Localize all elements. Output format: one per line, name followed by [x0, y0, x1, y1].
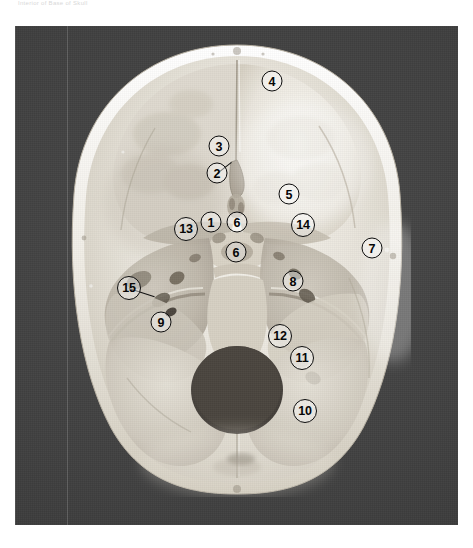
- marker-7[interactable]: 7: [362, 238, 383, 259]
- cranial-base-illustration: [63, 42, 411, 497]
- marker-1[interactable]: 1: [201, 212, 222, 233]
- marker-12[interactable]: 12: [268, 324, 292, 348]
- marker-5[interactable]: 5: [279, 184, 300, 205]
- marker-6a[interactable]: 6: [227, 212, 248, 233]
- marker-13[interactable]: 13: [174, 217, 198, 241]
- plate-caption: Interior of Base of Skull: [18, 0, 88, 7]
- marker-9[interactable]: 9: [151, 312, 172, 333]
- anatomy-photograph: 1234566789101112131415: [15, 26, 458, 525]
- marker-14[interactable]: 14: [291, 213, 315, 237]
- marker-2[interactable]: 2: [207, 163, 228, 184]
- marker-11[interactable]: 11: [290, 346, 314, 370]
- marker-8[interactable]: 8: [283, 271, 304, 292]
- marker-4[interactable]: 4: [262, 71, 283, 92]
- marker-3[interactable]: 3: [209, 136, 230, 157]
- marker-10[interactable]: 10: [293, 399, 317, 423]
- plate-left-edge: [15, 26, 16, 525]
- marker-6b[interactable]: 6: [226, 242, 247, 263]
- cranial-base-specimen: [63, 42, 411, 497]
- plate-vertical-seam: [67, 26, 68, 525]
- marker-15[interactable]: 15: [117, 276, 141, 300]
